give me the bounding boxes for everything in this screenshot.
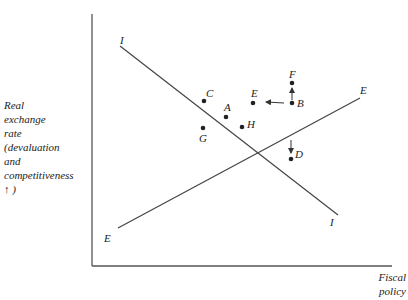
point-f-label: F bbox=[288, 68, 296, 80]
point-c bbox=[202, 99, 207, 104]
point-g-label: G bbox=[199, 132, 207, 144]
point-h-label: H bbox=[246, 118, 256, 130]
diagram-canvas: I I E E A C E F B G H D bbox=[0, 0, 408, 300]
ii-curve bbox=[120, 46, 338, 215]
arrow-b-to-e bbox=[266, 102, 284, 103]
point-h bbox=[240, 125, 245, 130]
ii-start-label: I bbox=[119, 34, 125, 46]
ii-end-label: I bbox=[329, 216, 335, 228]
point-f bbox=[290, 81, 295, 86]
point-g bbox=[201, 126, 206, 131]
ee-start-label: E bbox=[103, 232, 111, 244]
point-b-label: B bbox=[297, 97, 304, 109]
ee-end-label: E bbox=[359, 84, 367, 96]
point-b bbox=[290, 101, 295, 106]
point-a-label: A bbox=[223, 101, 231, 113]
point-a bbox=[224, 115, 229, 120]
point-e bbox=[251, 101, 256, 106]
point-d-label: D bbox=[294, 148, 303, 160]
point-c-label: C bbox=[206, 87, 214, 99]
ee-curve bbox=[118, 98, 360, 228]
point-d bbox=[289, 157, 294, 162]
point-e-label: E bbox=[250, 87, 258, 99]
